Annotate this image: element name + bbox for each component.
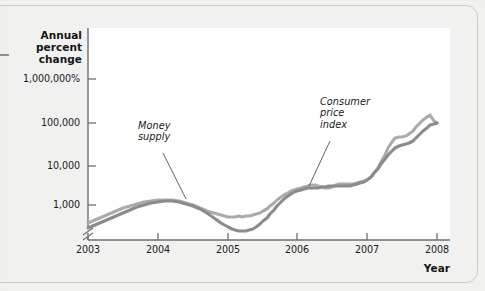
x-tick-label-2008: 2008 xyxy=(414,244,460,255)
annotation-consumer-price-index: Consumer price index xyxy=(320,96,370,130)
y-tick-label-1000: 1,000 xyxy=(6,199,80,210)
x-tick-marks xyxy=(88,233,437,240)
y-axis-title: Annual percent change xyxy=(18,29,82,66)
x-tick-label-2004: 2004 xyxy=(135,244,181,255)
x-tick-label-2006: 2006 xyxy=(274,244,320,255)
x-tick-label-2003: 2003 xyxy=(65,244,111,255)
leader-line-money-supply xyxy=(163,153,186,199)
y-tick-label-100000: 100,000 xyxy=(6,117,80,128)
y-tick-label-10000: 10,000 xyxy=(6,160,80,171)
y-tick-marks xyxy=(88,79,96,205)
y-tick-label-1000000: 1,000,000% xyxy=(6,73,80,84)
x-tick-label-2005: 2005 xyxy=(205,244,251,255)
x-axis-title: Year xyxy=(398,262,450,274)
leader-line-consumer-price-index xyxy=(309,141,330,186)
figure-page: Annual percent change Year 1,000,000% 10… xyxy=(0,0,485,291)
x-tick-label-2007: 2007 xyxy=(344,244,390,255)
annotation-money-supply: Money supply xyxy=(138,120,170,143)
